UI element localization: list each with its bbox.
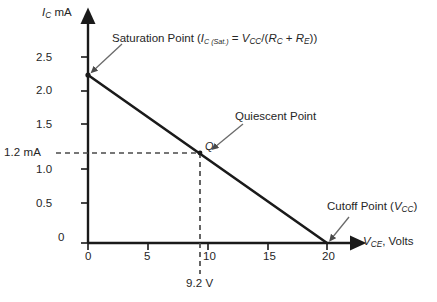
x-tick-label: 20	[322, 251, 335, 263]
cutoff-prefix: Cutoff Point (	[327, 200, 394, 212]
quiescent-voltage-label: 9.2 V	[186, 278, 213, 290]
y-tick-label: 2.0	[36, 85, 52, 97]
y-tick-label: 2.5	[36, 52, 52, 64]
x-axis-subscript: CE	[371, 240, 382, 249]
y-tick-label: 0.5	[36, 198, 52, 210]
saturation-point-annotation: Saturation Point (IC (Sat.) = VCC/(RC + …	[112, 33, 317, 46]
quiescent-point-annotation: Quiescent Point	[235, 111, 316, 123]
quiescent-point-leader	[215, 124, 243, 147]
cutoff-vcc-symbol: V	[394, 200, 402, 212]
dc-load-line-figure: IC mA VCE, Volts 2.5 2.0 1.5 1.0 0.5 0 0…	[0, 0, 437, 302]
cutoff-point-annotation: Cutoff Point (VCC)	[327, 201, 417, 214]
saturation-prefix: Saturation Point (	[112, 32, 201, 44]
x-axis-unit: , Volts	[382, 235, 413, 247]
saturation-point-marker	[85, 72, 90, 77]
quiescent-point-marker-label: Q	[205, 141, 214, 152]
x-tick-label: 15	[263, 251, 276, 263]
x-tick-label: 10	[203, 251, 216, 263]
y-tick-label: 0	[58, 232, 65, 244]
quiescent-current-label: 1.2 mA	[4, 147, 41, 159]
y-tick-label: 1.5	[36, 119, 52, 131]
x-tick-label: 0	[85, 251, 92, 263]
saturation-current-subscript: C (Sat.)	[204, 38, 229, 46]
cutoff-vcc-subscript: CC	[402, 205, 414, 214]
saturation-vcc-subscript: CC	[249, 37, 261, 46]
cutoff-suffix: )	[414, 200, 418, 212]
quiescent-point-marker	[198, 151, 203, 156]
saturation-equals: =	[229, 32, 242, 44]
y-axis-unit: mA	[51, 6, 71, 18]
saturation-point-leader	[94, 44, 122, 70]
saturation-plus: +	[283, 32, 296, 44]
saturation-rc-symbol: R	[268, 32, 276, 44]
dc-load-line	[88, 75, 327, 243]
y-axis-label: IC mA	[42, 7, 72, 20]
x-axis-label: VCE, Volts	[363, 236, 413, 249]
y-tick-label: 1.0	[36, 164, 52, 176]
x-axis-symbol: V	[363, 235, 371, 247]
saturation-suffix: ))	[310, 32, 318, 44]
saturation-re-symbol: R	[296, 32, 304, 44]
x-tick-label: 5	[144, 251, 151, 263]
cutoff-point-leader	[332, 217, 349, 238]
